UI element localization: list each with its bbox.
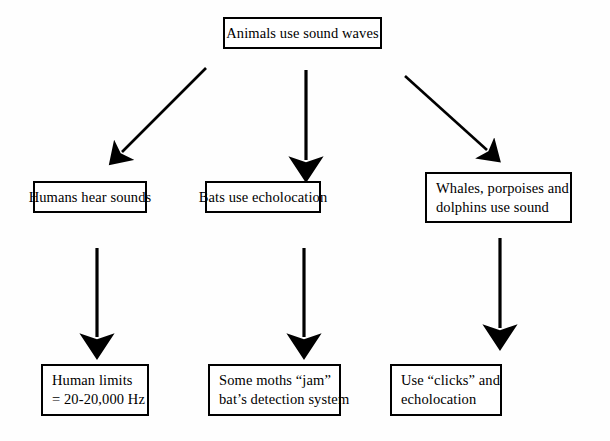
node-some-moths-jam: Some moths “jam” bat’s detection system <box>208 364 341 416</box>
node-clicks-line-1: Use “clicks” and <box>401 371 500 390</box>
node-use-clicks-and-echolocation: Use “clicks” and echolocation <box>390 364 502 416</box>
node-whales-line-1: Whales, porpoises and <box>436 179 569 198</box>
node-humans-hear-sounds: Humans hear sounds <box>33 181 147 213</box>
node-bats-line-1: Bats use echolocation <box>199 188 328 207</box>
connector-root-to-whales <box>405 76 487 150</box>
node-bats-use-echolocation: Bats use echolocation <box>205 181 321 213</box>
node-humans-line-1: Humans hear sounds <box>29 188 152 207</box>
flowchart-canvas: Animals use sound waves Humans hear soun… <box>0 0 610 441</box>
node-whales-porpoises-dolphins: Whales, porpoises and dolphins use sound <box>425 172 572 223</box>
node-animals-use-sound-waves: Animals use sound waves <box>223 17 382 49</box>
node-moths-line-2: bat’s detection system <box>219 390 349 409</box>
node-root-line-1: Animals use sound waves <box>226 24 379 43</box>
node-limits-line-1: Human limits <box>52 371 133 390</box>
connector-root-to-humans <box>122 68 206 152</box>
node-moths-line-1: Some moths “jam” <box>219 371 331 390</box>
node-human-limits: Human limits = 20-20,000 Hz <box>41 364 149 416</box>
node-clicks-line-2: echolocation <box>401 390 476 409</box>
node-limits-line-2: = 20-20,000 Hz <box>52 390 145 409</box>
node-whales-line-2: dolphins use sound <box>436 198 549 217</box>
